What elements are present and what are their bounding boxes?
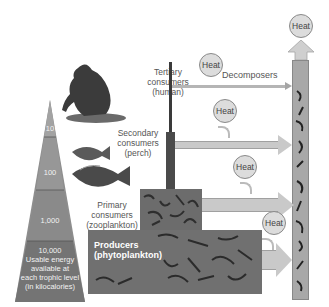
decomposer-texture bbox=[293, 61, 309, 300]
pyramid-level-tertiary-value: 10 bbox=[15, 124, 85, 133]
tertiary-to-decomposers-arrow bbox=[172, 83, 292, 89]
primary-consumers-label: Primary consumers (zooplankton) bbox=[82, 200, 142, 230]
producers-block: Producers (phytoplankton) bbox=[88, 230, 262, 294]
heat-circle-tertiary: Heat bbox=[199, 53, 223, 77]
energy-pyramid: 10 100 1,000 10,000 Usable energy availa… bbox=[15, 100, 85, 302]
producers-label: Producers (phytoplankton) bbox=[94, 240, 162, 260]
top-heat-arrow bbox=[288, 40, 314, 60]
secondary-to-decomposers-arrow bbox=[175, 138, 292, 152]
primary-line-3: (zooplankton) bbox=[82, 220, 142, 230]
heat-curl-producers bbox=[262, 238, 274, 250]
heat-curl-secondary bbox=[218, 126, 230, 138]
heat-curl-primary bbox=[240, 182, 252, 194]
primary-line-1: Primary bbox=[82, 200, 142, 210]
tertiary-level-bar bbox=[169, 62, 172, 132]
pyramid-caption-line-2: available at bbox=[15, 264, 85, 273]
tertiary-consumers-label: Tertiary consumers (human) bbox=[138, 67, 198, 97]
primary-line-2: consumers bbox=[82, 210, 142, 220]
heat-circle-secondary: Heat bbox=[213, 99, 237, 123]
secondary-consumers-label: Secondary consumers (perch) bbox=[108, 128, 168, 158]
primary-consumers-block bbox=[140, 189, 202, 232]
pyramid-caption-line-1: Usable energy bbox=[15, 255, 85, 264]
secondary-level-bar bbox=[166, 132, 175, 190]
tertiary-line-1: Tertiary bbox=[138, 67, 198, 77]
secondary-line-2: consumers bbox=[108, 138, 168, 148]
producers-line-2: (phytoplankton) bbox=[94, 250, 162, 260]
producers-line-1: Producers bbox=[94, 240, 162, 250]
pyramid-caption-line-4: (in kilocalories) bbox=[15, 282, 85, 291]
secondary-line-3: (perch) bbox=[108, 148, 168, 158]
zooplankton-texture bbox=[140, 189, 202, 232]
pyramid-level-primary-value: 1,000 bbox=[15, 216, 85, 225]
human-illustration bbox=[58, 62, 126, 124]
heat-circle-primary: Heat bbox=[233, 155, 257, 179]
pyramid-level-producers-value: 10,000 bbox=[15, 246, 85, 255]
heat-circle-producers: Heat bbox=[262, 211, 286, 235]
secondary-line-1: Secondary bbox=[108, 128, 168, 138]
decomposers-label: Decomposers bbox=[222, 70, 278, 80]
decomposers-column bbox=[292, 60, 309, 300]
pyramid-caption-line-3: each trophic level bbox=[9, 273, 91, 282]
heat-circle-top: Heat bbox=[289, 14, 313, 38]
